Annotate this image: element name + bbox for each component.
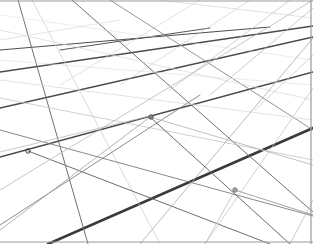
intersection-node [149,115,153,119]
perspective-grid [0,0,313,244]
perspective-grid-image [0,0,313,244]
intersection-node [233,188,237,192]
